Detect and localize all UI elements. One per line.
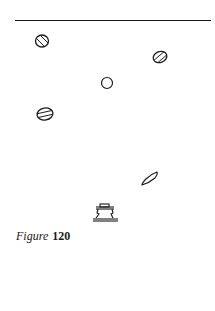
hatched-oval-icon	[34, 33, 50, 48]
bell-object-icon	[93, 204, 118, 221]
figure-page: Figure120	[0, 0, 215, 311]
figure-illustration	[0, 0, 215, 311]
plain-circle-icon	[102, 78, 113, 89]
hatched-oval-icon	[149, 47, 169, 65]
crescent-icon	[142, 172, 157, 185]
caption-label: Figure	[16, 229, 48, 243]
caption-number: 120	[52, 229, 70, 243]
figure-caption: Figure120	[16, 229, 70, 244]
striped-oval-icon	[36, 107, 54, 122]
